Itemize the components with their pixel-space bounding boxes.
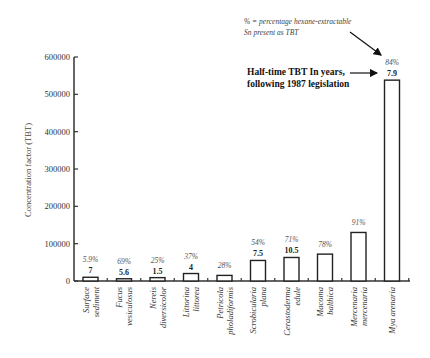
category-label: Cerastodermaedule [282, 287, 302, 336]
category-label-line: Surface [81, 287, 91, 313]
percent-label: 71% [285, 235, 299, 244]
category-label-line: mercenaria [359, 287, 369, 326]
half-time-line1: Half-time TBT In years, [247, 67, 345, 77]
pct-note-line2: Sn present as TBT [244, 28, 299, 37]
bar [217, 275, 232, 281]
category-label-line: Mya arenaria [387, 287, 397, 335]
category-label: Fucusvesiculosus [114, 286, 134, 325]
y-tick-label: 500000 [45, 89, 71, 99]
category-label-line: Nereis [148, 286, 158, 310]
y-tick-label: 200000 [45, 201, 71, 211]
y-tick-label: 100000 [45, 239, 71, 249]
percent-label: 5.9% [83, 255, 99, 264]
category-label: Petricolapholadiformis [215, 286, 235, 335]
bar-group: 75.9% [83, 255, 99, 281]
category-label: Mercenariamercenaria [349, 287, 369, 328]
percent-label: 28% [218, 261, 232, 270]
bar [351, 232, 366, 281]
half-time-label: 7.5 [253, 249, 263, 258]
y-axis-ticks: 0100000200000300000400000500000600000 [45, 52, 79, 286]
bars: 75.9%5.669%1.525%437%28%7.554%10.571%78%… [83, 58, 400, 281]
bar-group: 28% [217, 261, 232, 281]
half-time-label: 1.5 [153, 267, 163, 276]
bar [117, 279, 132, 281]
category-label-line: Macoma [315, 287, 325, 318]
percent-label: 54% [251, 238, 265, 247]
y-axis-label: Concentration factor (TBT) [23, 123, 33, 217]
bar [284, 257, 299, 281]
category-label-line: pholadiformis [225, 286, 235, 335]
category-label-line: littorea [191, 287, 201, 312]
percent-label: 25% [151, 256, 165, 265]
category-label: Nereisdiversicolor [148, 286, 168, 328]
category-label-line: Petricola [215, 287, 225, 320]
category-label: Scrobiculariaplana [248, 287, 268, 333]
y-tick-label: 0 [66, 276, 70, 286]
category-label: Surfacesediment [81, 286, 101, 317]
percent-label: 84% [385, 58, 399, 67]
y-tick-label: 600000 [45, 52, 71, 62]
bar-group: 7.554% [251, 238, 266, 281]
bar-group: 7.984% [385, 58, 400, 281]
category-label-line: balthica [325, 287, 335, 315]
bar-group: 5.669% [117, 257, 132, 281]
bar [83, 277, 98, 281]
bar-group: 437% [183, 252, 198, 281]
half-time-label: 7.9 [387, 69, 397, 78]
category-label-line: edule [292, 287, 302, 306]
category-label-line: Cerastoderma [282, 287, 292, 336]
bar-group: 1.525% [150, 256, 165, 281]
category-label-line: Fucus [114, 286, 124, 308]
half-time-label: 4 [189, 263, 193, 272]
bar [251, 260, 266, 281]
pct-annotation: % = percentage hexane-extractable Sn pre… [244, 17, 381, 55]
category-label: Littorinalittorea [181, 287, 201, 318]
bar [385, 80, 400, 281]
category-label-line: Mercenaria [349, 287, 359, 328]
category-label-line: Littorina [181, 287, 191, 318]
percent-label: 78% [318, 240, 332, 249]
percent-label: 91% [352, 218, 366, 227]
y-tick-label: 400000 [45, 127, 71, 137]
half-time-annotation: Half-time TBT In years, following 1987 l… [247, 67, 377, 89]
category-label-line: Scrobicularia [248, 287, 258, 333]
chart: Concentration factor (TBT) 0100000200000… [0, 0, 430, 358]
bar-group: 78% [318, 240, 333, 281]
bar-group: 91% [351, 218, 366, 281]
category-label-line: diversicolor [158, 286, 168, 328]
half-time-label: 10.5 [285, 246, 299, 255]
half-time-line2: following 1987 legislation [247, 79, 350, 89]
category-label-line: plana [258, 287, 268, 307]
half-time-label: 7 [89, 266, 93, 275]
percent-label: 37% [183, 252, 198, 261]
bar [184, 274, 199, 281]
category-label-line: sediment [91, 286, 101, 317]
category-label: Macomabalthica [315, 287, 335, 318]
bar [150, 278, 165, 281]
category-labels: SurfacesedimentFucusvesiculosusNereisdiv… [81, 286, 398, 335]
bar [318, 254, 333, 281]
bar-group: 10.571% [284, 235, 299, 281]
y-tick-label: 300000 [45, 164, 71, 174]
pct-note-line1: % = percentage hexane-extractable [244, 17, 352, 26]
category-label: Mya arenaria [387, 287, 397, 335]
percent-label: 69% [117, 257, 131, 266]
half-time-label: 5.6 [119, 268, 129, 277]
pct-arrow-icon [350, 32, 381, 55]
category-label-line: vesiculosus [124, 286, 134, 325]
